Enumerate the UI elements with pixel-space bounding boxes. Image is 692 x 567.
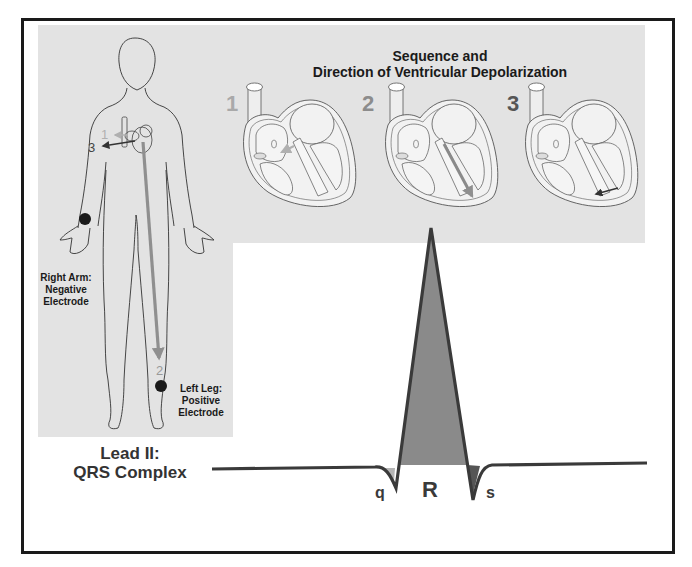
- qrs-trace: [212, 228, 647, 500]
- lead-label-line-1: Lead II:: [50, 444, 210, 463]
- r-wave-label: R: [422, 477, 438, 503]
- lead-ii-label: Lead II: QRS Complex: [50, 444, 210, 482]
- right-arm-label-line-1: Right Arm:: [36, 272, 96, 284]
- heart-stage-3: [526, 83, 638, 207]
- right-arm-label: Right Arm: Negative Electrode: [36, 272, 96, 308]
- title-line-2: Direction of Ventricular Depolarization: [250, 64, 630, 80]
- diagram-title: Sequence and Direction of Ventricular De…: [250, 48, 630, 80]
- arrow-label-2: 2: [156, 364, 163, 377]
- lead-label-line-2: QRS Complex: [50, 463, 210, 482]
- right-arm-electrode: [79, 213, 91, 225]
- s-wave-label: s: [486, 484, 495, 502]
- stage-number-1: 1: [226, 93, 238, 115]
- arrow-label-3: 3: [88, 141, 95, 154]
- body-outline: [60, 38, 214, 429]
- title-line-1: Sequence and: [250, 48, 630, 64]
- stage-number-2: 2: [362, 93, 374, 115]
- left-leg-label-line-3: Electrode: [172, 407, 230, 419]
- left-leg-label-line-2: Positive: [172, 395, 230, 407]
- left-leg-label: Left Leg: Positive Electrode: [172, 383, 230, 419]
- stage-number-3: 3: [507, 93, 519, 115]
- q-wave-label: q: [375, 484, 385, 502]
- left-leg-electrode: [155, 380, 167, 392]
- heart-stage-1: [244, 83, 356, 207]
- arrow-label-1: 1: [101, 128, 108, 141]
- right-arm-label-line-3: Electrode: [36, 296, 96, 308]
- arrow-2-long-icon: [143, 142, 159, 358]
- right-arm-label-line-2: Negative: [36, 284, 96, 296]
- heart-stage-2: [386, 83, 498, 207]
- left-leg-label-line-1: Left Leg:: [172, 383, 230, 395]
